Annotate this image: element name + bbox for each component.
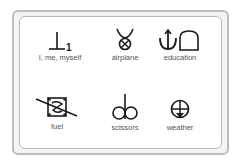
education-icon xyxy=(155,28,205,52)
symbol-i-me-myself: 1 I, me, myself xyxy=(27,30,93,62)
scissors-icon xyxy=(109,92,141,122)
airplane-icon xyxy=(110,27,140,52)
symbol-label: education xyxy=(147,53,213,62)
svg-text:1: 1 xyxy=(66,42,72,52)
symbol-fuel: fuel xyxy=(24,95,90,131)
symbol-label: I, me, myself xyxy=(27,53,93,62)
person-number-one-icon: 1 xyxy=(43,30,77,52)
weather-icon xyxy=(167,98,193,122)
symbol-label: weather xyxy=(147,123,213,132)
symbol-education: education xyxy=(147,28,213,62)
fuel-icon xyxy=(34,95,80,121)
symbol-label: fuel xyxy=(24,122,90,131)
symbol-weather: weather xyxy=(147,98,213,132)
